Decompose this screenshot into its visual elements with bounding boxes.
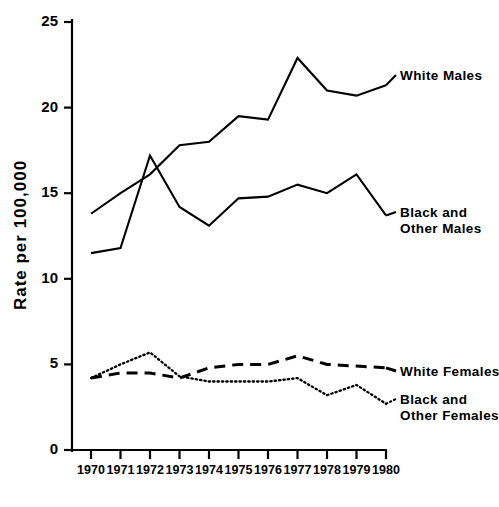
x-tick-label-1970: 1970 <box>77 463 105 477</box>
legend-label-black-other-females-line1: Black and <box>400 392 467 407</box>
x-tick-label-1973: 1973 <box>166 463 194 477</box>
legend-inline: White Males Black and Other Males White … <box>400 68 499 423</box>
y-axis-tick-labels: 25 20 15 10 5 0 <box>41 12 58 457</box>
y-axis-ticks <box>64 22 72 450</box>
legend-leader-0 <box>386 75 396 85</box>
legend-label-black-other-males-line1: Black and <box>400 205 467 220</box>
legend-label-black-other-males-line2: Other Males <box>400 221 482 236</box>
legend-leader-1 <box>386 212 396 215</box>
legend-label-black-other-females-line2: Other Females <box>400 408 499 423</box>
y-tick-label-10: 10 <box>41 269 58 286</box>
legend-leader-3 <box>386 399 396 404</box>
series-line-black-other-females <box>91 352 386 403</box>
series-line-white-males <box>91 58 386 214</box>
x-axis-ticks <box>91 450 386 459</box>
x-tick-label-1971: 1971 <box>107 463 135 477</box>
y-tick-label-5: 5 <box>50 354 58 371</box>
chart-svg: 25 20 15 10 5 0 1970 1971 1972 1973 <box>0 0 499 507</box>
x-tick-label-1976: 1976 <box>254 463 282 477</box>
x-tick-label-1972: 1972 <box>136 463 164 477</box>
series-layer <box>91 58 396 404</box>
y-tick-label-20: 20 <box>41 98 58 115</box>
line-chart: 25 20 15 10 5 0 1970 1971 1972 1973 <box>0 0 499 507</box>
x-tick-label-1980: 1980 <box>372 463 400 477</box>
x-tick-label-1979: 1979 <box>343 463 371 477</box>
x-tick-label-1975: 1975 <box>225 463 253 477</box>
y-axis-title: Rate per 100,000 <box>11 160 30 310</box>
y-tick-label-0: 0 <box>50 440 58 457</box>
legend-label-white-females: White Females <box>400 364 499 379</box>
series-line-black-other-males <box>91 156 386 254</box>
x-axis-tick-labels: 1970 1971 1972 1973 1974 1975 1976 1977 … <box>77 463 400 477</box>
legend-leader-2 <box>386 368 396 371</box>
x-tick-label-1978: 1978 <box>313 463 341 477</box>
x-tick-label-1977: 1977 <box>284 463 312 477</box>
y-tick-label-25: 25 <box>41 12 58 29</box>
x-tick-label-1974: 1974 <box>195 463 223 477</box>
y-tick-label-15: 15 <box>41 183 58 200</box>
legend-label-white-males: White Males <box>400 68 482 83</box>
